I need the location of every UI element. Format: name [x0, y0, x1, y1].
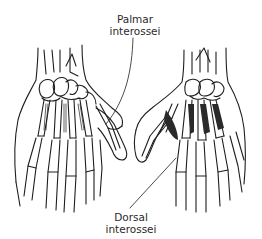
right-hand-dorsal-view	[135, 48, 246, 212]
palmar-label-line2: interossei	[104, 25, 166, 37]
left-hand-palmar-view	[15, 45, 127, 212]
dorsal-label-line2: interossei	[100, 223, 162, 235]
dorsal-interossei-label: Dorsal interossei	[100, 211, 162, 235]
dorsal-label-line1: Dorsal	[100, 211, 162, 223]
palmar-interossei-label: Palmar interossei	[104, 13, 166, 37]
palmar-label-line1: Palmar	[104, 13, 166, 25]
palmar-leader-line	[106, 38, 133, 124]
dorsal-leader-line	[130, 158, 176, 208]
